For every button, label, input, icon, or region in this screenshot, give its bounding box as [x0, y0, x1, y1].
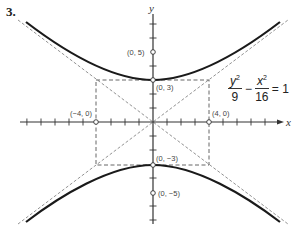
vertex-top-point — [151, 78, 156, 83]
hyperbola-equation: y2 9 − x2 16 = 1 — [228, 74, 289, 103]
exponent: 2 — [236, 74, 240, 81]
focus-top-label: (0, 5) — [127, 48, 145, 57]
left-point-label: (−4, 0) — [70, 109, 92, 118]
fraction-x: x2 16 — [255, 74, 269, 103]
exponent: 2 — [263, 74, 267, 81]
right-point — [207, 120, 212, 125]
vertex-top-label: (0, 3) — [156, 83, 174, 92]
minus-sign: − — [245, 82, 252, 96]
right-point-label: (4, 0) — [212, 109, 230, 118]
focus-bottom-point — [151, 191, 156, 196]
x-axis-arrow-icon — [277, 120, 284, 125]
equals-one: = 1 — [272, 82, 289, 96]
focus-bottom-label: (0, −5) — [158, 189, 180, 198]
vertex-bottom-point — [151, 163, 156, 168]
focus-top-point — [151, 50, 156, 55]
left-point — [94, 120, 99, 125]
vertex-bottom-label: (0, −3) — [156, 154, 178, 163]
denominator-9: 9 — [232, 89, 239, 103]
fraction-y: y2 9 — [228, 74, 242, 103]
denominator-16: 16 — [255, 89, 268, 103]
x-axis-label: x — [285, 116, 291, 128]
y-axis-label: y — [148, 2, 154, 14]
hyperbola-diagram: x y (0, 5 — [0, 0, 293, 227]
